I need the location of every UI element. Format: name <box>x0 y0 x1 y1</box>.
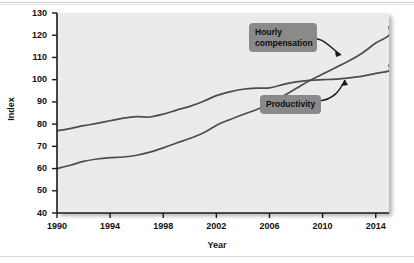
y-tick-label: 90 <box>17 97 47 106</box>
plot-area <box>57 13 389 213</box>
y-axis-title: Index <box>6 84 16 134</box>
x-tick-label: 1994 <box>90 222 130 231</box>
annotation-productivity: Productivity <box>260 95 321 114</box>
line-productivity <box>57 65 389 131</box>
x-tick-label: 1998 <box>143 222 183 231</box>
bottom-rule <box>0 256 414 257</box>
top-rule-secondary <box>0 4 414 5</box>
chart-figure: 405060708090100110120130 199019941998200… <box>0 0 414 263</box>
x-tick-label: 2002 <box>196 222 236 231</box>
y-tick-label: 60 <box>17 164 47 173</box>
x-tick-marks <box>57 213 376 218</box>
y-tick-label: 80 <box>17 120 47 129</box>
line-hourly-compensation <box>57 27 389 169</box>
series-canvas <box>57 13 389 213</box>
y-tick-label: 50 <box>17 186 47 195</box>
y-tick-label: 130 <box>17 9 47 18</box>
x-tick-label: 2010 <box>303 222 343 231</box>
x-axis-title: Year <box>187 240 247 250</box>
top-rule <box>0 2 414 3</box>
y-tick-label: 70 <box>17 142 47 151</box>
y-tick-label: 110 <box>17 53 47 62</box>
y-tick-label: 40 <box>17 209 47 218</box>
x-tick-label: 1990 <box>37 222 77 231</box>
y-tick-label: 120 <box>17 31 47 40</box>
annotation-hourly-compensation: Hourly compensation <box>249 23 317 52</box>
x-tick-label: 2014 <box>356 222 396 231</box>
y-tick-label: 100 <box>17 75 47 84</box>
x-tick-label: 2006 <box>249 222 289 231</box>
